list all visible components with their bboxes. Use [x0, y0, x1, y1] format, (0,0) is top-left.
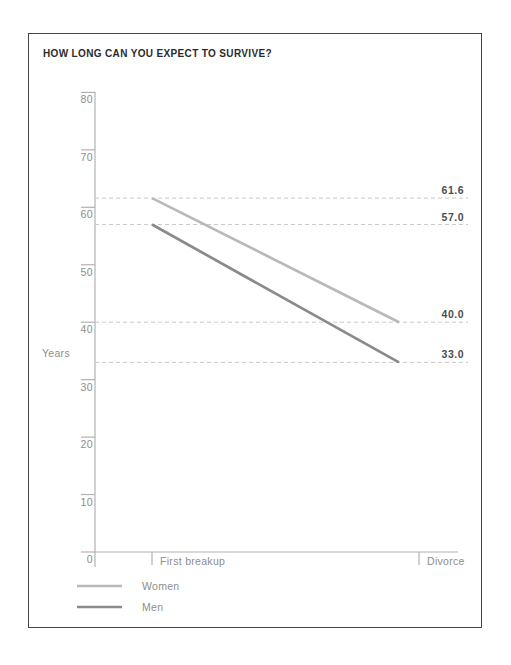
- y-tick-label: 20: [81, 438, 93, 450]
- x-tick-label: First breakup: [160, 555, 225, 567]
- annotation-label: 33.0: [442, 348, 464, 360]
- series-line-women: [152, 198, 399, 322]
- y-tick-label: 50: [81, 266, 93, 278]
- y-tick-label: 80: [81, 93, 93, 105]
- y-tick-label: 40: [81, 323, 93, 335]
- chart-canvas: 0102030405060708061.657.040.033.0WomenMe…: [0, 0, 511, 665]
- y-tick-label: 70: [81, 151, 93, 163]
- y-tick-label: 60: [81, 208, 93, 220]
- legend-label-men: Men: [142, 601, 163, 613]
- annotation-label: 61.6: [442, 184, 464, 196]
- y-tick-label: 0: [87, 553, 93, 565]
- annotation-label: 57.0: [442, 211, 464, 223]
- y-tick-label: 30: [81, 381, 93, 393]
- annotation-label: 40.0: [442, 308, 464, 320]
- series-line-men: [152, 225, 399, 363]
- y-tick-label: 10: [81, 496, 93, 508]
- page: HOW LONG CAN YOU EXPECT TO SURVIVE? Year…: [0, 0, 511, 665]
- legend-label-women: Women: [142, 580, 180, 592]
- x-tick-label: Divorce: [427, 555, 465, 567]
